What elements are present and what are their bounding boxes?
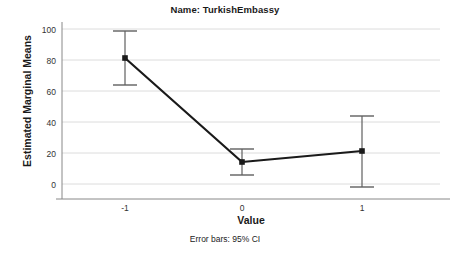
error-bars-footnote: Error bars: 95% CI [0, 234, 450, 244]
x-tick-label-minus1: -1 [105, 203, 145, 213]
estimated-marginal-means-chart: Name: TurkishEmbassy Estimated Marginal … [0, 0, 450, 254]
data-point-marker-1 [122, 55, 128, 61]
x-tick-label-0: 0 [222, 203, 262, 213]
x-axis-title: Value [62, 214, 440, 226]
data-point-marker-2 [239, 159, 245, 165]
series-line [125, 58, 362, 162]
x-tick-label-1: 1 [342, 203, 382, 213]
data-point-marker-3 [359, 148, 365, 154]
